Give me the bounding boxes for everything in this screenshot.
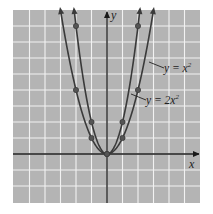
data-point — [89, 119, 94, 124]
data-point — [104, 151, 109, 156]
label-text: y = 2x — [145, 94, 176, 107]
x-axis-label: x — [188, 157, 195, 171]
svg-text:y = x2: y = x2 — [163, 61, 192, 75]
label-text: y = x — [163, 62, 189, 75]
parabola-graph: y x y = x2 y = 2x2 — [0, 0, 213, 214]
data-point — [73, 87, 78, 92]
label-exponent: 2 — [175, 93, 179, 101]
y-axis-label: y — [110, 8, 117, 22]
label-exponent: 2 — [188, 61, 192, 69]
data-point — [73, 23, 78, 28]
data-point — [120, 119, 125, 124]
data-point — [89, 135, 94, 140]
data-point — [135, 23, 140, 28]
data-point — [120, 135, 125, 140]
data-point — [135, 87, 140, 92]
svg-text:y = 2x2: y = 2x2 — [145, 93, 179, 107]
